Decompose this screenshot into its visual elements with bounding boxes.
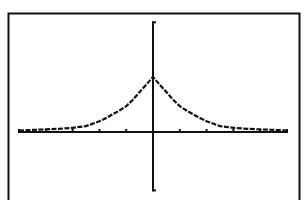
graph-canvas: [0, 0, 307, 200]
calculator-graph-screen: [0, 0, 307, 200]
axes: [18, 21, 288, 191]
